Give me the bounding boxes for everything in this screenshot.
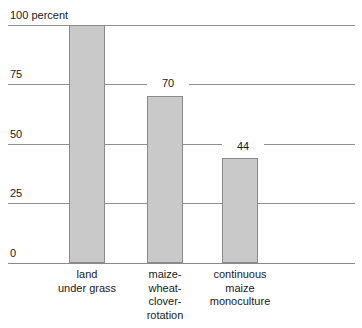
category-label-line: maize <box>195 282 285 296</box>
bar-land-under-grass <box>69 25 105 263</box>
category-label-line: wheat- <box>133 282 197 296</box>
category-label-line: rotation <box>133 309 197 323</box>
category-label-maize-wheat-clover-rotation: maize- wheat- clover- rotation <box>133 268 197 322</box>
category-label-line: clover- <box>133 295 197 309</box>
category-label-line: under grass <box>52 282 122 296</box>
bar-maize-wheat-clover-rotation <box>147 96 183 263</box>
bar-value-label-continuous-maize-monoculture: 44 <box>222 140 264 153</box>
category-label-land-under-grass: land under grass <box>52 268 122 295</box>
category-label-line: monoculture <box>195 295 285 309</box>
category-label-line: maize- <box>133 268 197 282</box>
category-label-line: land <box>52 268 122 282</box>
category-label-line: continuous <box>195 268 285 282</box>
bar-continuous-maize-monoculture <box>222 158 258 263</box>
category-label-continuous-maize-monoculture: continuous maize monoculture <box>195 268 285 309</box>
bar-chart: 100 percent 75 50 25 0 70 44 land under … <box>0 0 362 328</box>
bar-value-label-maize-wheat-clover-rotation: 70 <box>147 77 189 90</box>
